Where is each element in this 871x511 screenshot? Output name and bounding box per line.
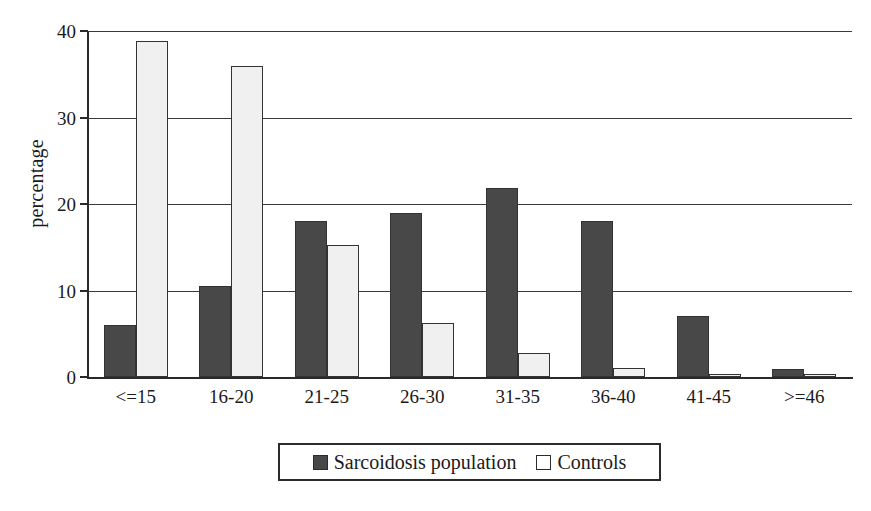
legend-label-sarcoidosis: Sarcoidosis population bbox=[334, 451, 517, 474]
bar->=46-controls bbox=[804, 374, 836, 377]
y-axis-tick-label: 0 bbox=[67, 368, 77, 387]
bar-41-45-sarcoidosis-population bbox=[677, 316, 709, 377]
bar-31-35-controls bbox=[518, 353, 550, 377]
bar-36-40-sarcoidosis-population bbox=[581, 221, 613, 377]
bar-36-40-controls bbox=[613, 368, 645, 377]
x-axis-tick-label: 41-45 bbox=[687, 386, 731, 408]
y-axis-tick-label: 20 bbox=[57, 195, 76, 214]
x-axis-tick-label: 31-35 bbox=[496, 386, 540, 408]
plot-area: 010203040 bbox=[88, 31, 852, 377]
x-axis-tick-label: 36-40 bbox=[591, 386, 635, 408]
y-axis-tick-mark bbox=[80, 376, 88, 378]
bar-16-20-sarcoidosis-population bbox=[199, 286, 231, 377]
bar-31-35-sarcoidosis-population bbox=[486, 188, 518, 377]
y-axis-tick-label: 40 bbox=[57, 22, 76, 41]
bar-21-25-controls bbox=[327, 245, 359, 377]
y-axis-tick-mark bbox=[80, 290, 88, 292]
x-axis-tick-label: <=15 bbox=[116, 386, 156, 408]
bar-chart-figure: percentage 010203040 <=1516-2021-2526-30… bbox=[0, 0, 871, 511]
y-axis-tick-label: 30 bbox=[57, 108, 76, 127]
y-axis-tick-mark bbox=[80, 203, 88, 205]
bar-<=15-sarcoidosis-population bbox=[104, 325, 136, 377]
x-axis-tick-label: 16-20 bbox=[209, 386, 253, 408]
bar-16-20-controls bbox=[231, 66, 263, 377]
y-axis-title: percentage bbox=[25, 104, 48, 264]
bar-26-30-controls bbox=[422, 323, 454, 377]
y-axis-tick-label: 10 bbox=[57, 281, 76, 300]
x-axis-tick-labels: <=1516-2021-2526-3031-3536-4041-45>=46 bbox=[88, 386, 852, 416]
legend-entry-controls: Controls bbox=[536, 451, 626, 474]
bar-26-30-sarcoidosis-population bbox=[390, 213, 422, 377]
x-axis-line bbox=[87, 377, 853, 379]
bar-<=15-controls bbox=[136, 41, 168, 377]
dark-gray-swatch-icon bbox=[313, 455, 328, 470]
chart-legend: Sarcoidosis population Controls bbox=[278, 443, 661, 481]
bars-layer bbox=[88, 31, 852, 377]
legend-label-controls: Controls bbox=[557, 451, 626, 474]
x-axis-tick-label: 21-25 bbox=[305, 386, 349, 408]
bar->=46-sarcoidosis-population bbox=[772, 369, 804, 377]
x-axis-tick-label: 26-30 bbox=[400, 386, 444, 408]
white-swatch-icon bbox=[536, 455, 551, 470]
y-axis-tick-mark bbox=[80, 117, 88, 119]
bar-21-25-sarcoidosis-population bbox=[295, 221, 327, 377]
x-axis-tick-label: >=46 bbox=[784, 386, 824, 408]
y-axis-tick-mark bbox=[80, 30, 88, 32]
bar-41-45-controls bbox=[709, 374, 741, 377]
legend-entry-sarcoidosis: Sarcoidosis population bbox=[313, 451, 517, 474]
